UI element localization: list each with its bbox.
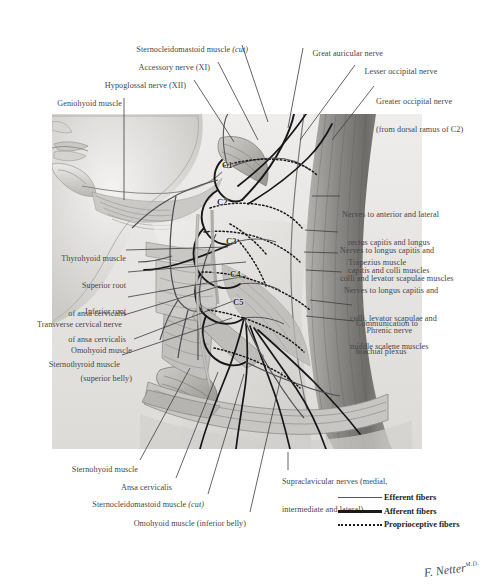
label-line-1: Supraclavicular nerves (medial, xyxy=(282,477,387,486)
legend-label-efferent: Efferent fibers xyxy=(382,493,436,502)
label-geniohyoid-muscle: Geniohyoid muscle xyxy=(14,90,122,118)
label-line-2: brachial plexus xyxy=(356,347,418,356)
signature-name: F. Netter xyxy=(423,561,466,580)
signature-suffix: M.D. xyxy=(465,560,480,568)
anatomy-plate: Sternocleidomastoid muscle (cut) Accesso… xyxy=(0,0,487,585)
efferent-line-icon xyxy=(338,492,382,503)
cervical-level-c5: C5 xyxy=(233,297,243,307)
proprioceptive-line-icon xyxy=(338,519,382,530)
legend-item-afferent: Afferent fibers xyxy=(338,506,487,517)
label-phrenic-nerve: Phrenic nerve xyxy=(358,317,412,345)
cervical-level-c2: C2 xyxy=(217,197,227,207)
label-line-1: Nerves to longus capitis and xyxy=(344,286,438,295)
legend: Efferent fibers Afferent fibers Proprioc… xyxy=(338,492,487,533)
legend-label-afferent: Afferent fibers xyxy=(382,507,437,516)
artist-signature: F. NetterM.D. xyxy=(410,544,483,585)
label-line-1: Greater occipital nerve xyxy=(376,97,463,106)
cervical-level-c1: C1 xyxy=(222,160,232,170)
label-omohyoid-inferior-belly: Omohyoid muscle (inferior belly) xyxy=(56,510,246,538)
afferent-line-icon xyxy=(338,506,382,517)
cervical-level-c4: C4 xyxy=(230,269,240,279)
label-sternothyroid-muscle: Sternothyroid muscle xyxy=(16,351,120,379)
label-line-1: Nerves to anterior and lateral xyxy=(342,210,439,219)
label-line-2: (from dorsal ramus of C2) xyxy=(376,125,463,134)
label-greater-occipital-nerve: Greater occipital nerve (from dorsal ram… xyxy=(376,78,463,153)
cervical-level-c3: C3 xyxy=(226,236,236,246)
legend-label-proprioceptive: Proprioceptive fibers xyxy=(382,520,459,529)
legend-item-proprioceptive: Proprioceptive fibers xyxy=(338,519,487,530)
legend-item-efferent: Efferent fibers xyxy=(338,492,487,503)
